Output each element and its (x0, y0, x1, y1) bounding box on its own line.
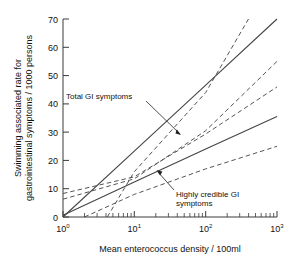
x-axis-title: Mean enterococcus density / 100ml (99, 244, 241, 254)
annotation-highly-credible-line1: Highly credible GI (176, 190, 239, 199)
x-tick-label-1000: 103 (270, 223, 284, 234)
series-highly-credible-fit (63, 117, 277, 216)
y-tick-label-40: 40 (48, 99, 58, 109)
series-total-gi-upper (107, 19, 248, 217)
y-axis-title-line1: Swimming associated rate for (13, 59, 23, 177)
y-tick-label-70: 70 (48, 15, 58, 25)
y-tick-label-10: 10 (48, 184, 58, 194)
annotation-total-gi: Total GI symptoms (66, 92, 181, 135)
annotation-total-gi-label: Total GI symptoms (66, 92, 132, 101)
y-tick-label-30: 30 (48, 128, 58, 138)
y-axis-title-line2: gastrointestinal symptoms / 1000 persons (24, 34, 34, 201)
x-tick-label-100: 102 (199, 223, 213, 234)
chart-figure: 0 10 20 30 40 50 60 70 (0, 0, 291, 271)
y-tick-label-20: 20 (48, 156, 58, 166)
annotation-highly-credible-arrowhead (157, 170, 163, 175)
series-total-gi-fit (63, 19, 277, 217)
y-tick-label-50: 50 (48, 71, 58, 81)
annotation-total-gi-leader (146, 101, 180, 134)
x-tick-label-1: 100 (56, 223, 70, 234)
annotation-highly-credible-line2: symptoms (176, 199, 212, 208)
x-axis-minor-ticks (85, 213, 274, 217)
annotation-highly-credible-gi: Highly credible GI symptoms (157, 170, 240, 208)
series-highly-credible-upper (63, 87, 277, 194)
x-axis-tick-labels: 100 101 102 103 (56, 223, 284, 234)
data-series-group (63, 19, 277, 217)
y-tick-label-60: 60 (48, 43, 58, 53)
y-axis-ticks (63, 19, 69, 217)
x-tick-label-10: 101 (128, 223, 142, 234)
y-axis-tick-labels: 0 10 20 30 40 50 60 70 (48, 15, 58, 223)
chart-canvas: 0 10 20 30 40 50 60 70 (0, 0, 291, 271)
y-tick-label-0: 0 (53, 213, 58, 223)
y-axis-title: Swimming associated rate for gastrointes… (13, 34, 34, 201)
series-total-gi-lower (63, 61, 277, 199)
